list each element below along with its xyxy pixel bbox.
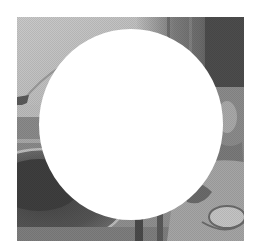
- image-canvas: [0, 0, 255, 250]
- white-circle-mask: [39, 29, 223, 220]
